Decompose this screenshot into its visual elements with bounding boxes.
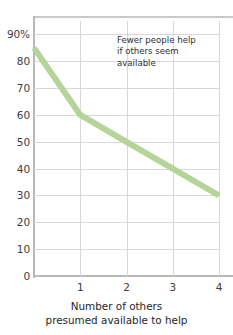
x-axis-title-line-1: Number of others (0, 300, 233, 314)
annotation-line-3: available (117, 58, 217, 69)
y-tick-label: 20 (0, 217, 30, 228)
y-tick-label: 40 (0, 164, 30, 175)
plot-frame-top (33, 16, 233, 18)
y-tick-label: 0 (0, 271, 30, 282)
x-axis-tick-labels: 1234 (34, 282, 233, 296)
gridline-vertical (219, 21, 220, 276)
annotation-callout: Fewer people help if others seem availab… (117, 35, 217, 69)
y-tick-label: 70 (0, 83, 30, 94)
x-tick-label: 2 (117, 282, 137, 293)
line-chart-figure: Percentage who help 0102030405060708090%… (0, 0, 233, 335)
y-tick-label: 30 (0, 190, 30, 201)
y-tick-label: 10 (0, 244, 30, 255)
y-tick-label: 60 (0, 110, 30, 121)
x-axis-title: Number of others presumed available to h… (0, 300, 233, 327)
y-axis-tick-labels: 0102030405060708090% (0, 21, 30, 276)
annotation-line-1: Fewer people help (117, 35, 217, 46)
x-tick-label: 1 (70, 282, 90, 293)
series-polyline (34, 48, 219, 196)
y-tick-label: 50 (0, 137, 30, 148)
x-tick-label: 4 (209, 282, 229, 293)
annotation-line-2: if others seem (117, 46, 217, 57)
x-tick-label: 3 (163, 282, 183, 293)
y-tick-label: 90% (0, 29, 30, 40)
x-axis-title-line-2: presumed available to help (0, 314, 233, 328)
y-tick-label: 80 (0, 56, 30, 67)
